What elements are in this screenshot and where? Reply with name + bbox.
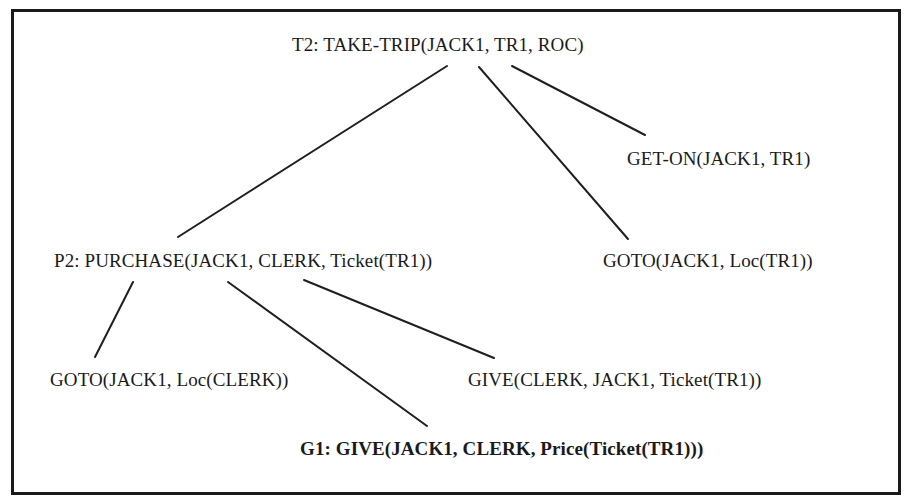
edge-t2-get-on [512,66,645,135]
node-get-on: GET-ON(JACK1, TR1) [627,148,810,170]
node-goto-train: GOTO(JACK1, Loc(TR1)) [603,250,813,272]
edge-p2-goto-clerk [95,282,133,357]
edge-t2-p2 [178,66,447,237]
node-t2-take-trip: T2: TAKE-TRIP(JACK1, TR1, ROC) [292,34,584,56]
edge-p2-give-ticket [304,280,494,358]
node-p2-purchase: P2: PURCHASE(JACK1, CLERK, Ticket(TR1)) [54,250,432,272]
node-give-ticket: GIVE(CLERK, JACK1, Ticket(TR1)) [468,369,761,391]
node-goto-clerk: GOTO(JACK1, Loc(CLERK)) [50,369,288,391]
edge-t2-goto-tr1 [479,67,628,239]
edge-p2-g1 [228,282,427,426]
node-g1-give-price: G1: GIVE(JACK1, CLERK, Price(Ticket(TR1)… [300,438,703,460]
